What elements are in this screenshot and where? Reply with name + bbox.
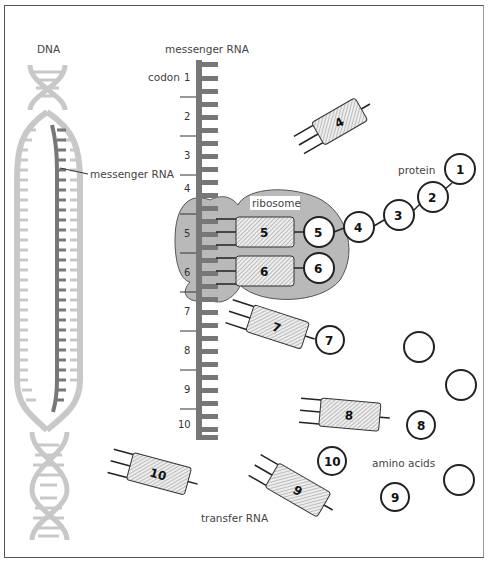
trna-label: transfer RNA: [201, 512, 269, 524]
svg-text:6: 6: [260, 265, 268, 279]
trna-10: 10: [107, 447, 201, 497]
codon-label: codon: [148, 71, 180, 83]
svg-text:5: 5: [260, 226, 268, 240]
protein-synthesis-diagram: DNA: [0, 0, 490, 565]
codon-number: 1: [184, 72, 190, 83]
codon-number: 6: [184, 267, 190, 278]
dna-label: DNA: [37, 43, 61, 55]
codon-number: 5: [184, 228, 190, 239]
svg-text:3: 3: [394, 209, 402, 223]
codon-number: 4: [184, 183, 190, 194]
codon-number: 3: [184, 150, 190, 161]
svg-text:2: 2: [428, 191, 436, 205]
protein-chain: 5 4 3 2 1 protein: [304, 154, 475, 247]
codon-number: 2: [184, 111, 190, 122]
svg-text:7: 7: [325, 334, 333, 348]
codon-number: 9: [184, 384, 190, 395]
svg-text:8: 8: [417, 419, 425, 433]
codon-number: 7: [184, 306, 190, 317]
svg-text:9: 9: [391, 491, 399, 505]
svg-text:10: 10: [324, 455, 341, 469]
ribosome-label: ribosome: [252, 197, 301, 209]
protein-label: protein: [398, 164, 435, 176]
trna-8: 8: [299, 396, 391, 432]
codon-number: 10: [178, 419, 191, 430]
svg-text:6: 6: [314, 262, 322, 276]
mrna-top-label: messenger RNA: [165, 43, 250, 55]
amino-acids-label: amino acids: [372, 457, 435, 469]
trna-4: 4: [292, 93, 376, 157]
trna-7: 7: [225, 298, 319, 352]
svg-text:1: 1: [456, 163, 464, 177]
svg-text:8: 8: [344, 408, 354, 423]
svg-text:5: 5: [314, 226, 322, 240]
svg-text:4: 4: [354, 221, 362, 235]
codon-number: 8: [184, 345, 190, 356]
mrna-inner-label: messenger RNA: [90, 168, 175, 180]
